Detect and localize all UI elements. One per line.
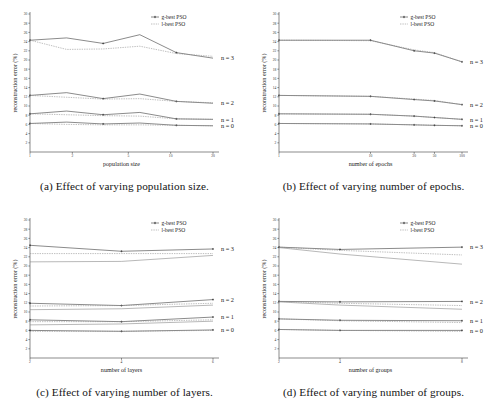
subfigure-d: 24681012141618202224262830248number of g…	[249, 206, 498, 412]
svg-text:population size: population size	[103, 161, 140, 167]
svg-text:20: 20	[24, 58, 28, 62]
svg-text:number of groups: number of groups	[349, 367, 393, 373]
svg-text:l-best PSO: l-best PSO	[411, 21, 435, 27]
svg-text:2: 2	[275, 141, 277, 145]
caption-b: (b) Effect of varying number of epochs.	[249, 180, 498, 192]
svg-text:50: 50	[433, 154, 437, 158]
plot-c: 24681012141618202224262830246number of l…	[0, 206, 249, 388]
svg-text:n = 0: n = 0	[470, 327, 483, 334]
plot-d: 24681012141618202224262830248number of g…	[249, 206, 498, 388]
svg-text:2: 2	[71, 154, 73, 158]
svg-text:8: 8	[275, 114, 277, 118]
subfigure-c: 24681012141618202224262830246number of l…	[0, 206, 249, 412]
svg-text:5: 5	[127, 154, 129, 158]
svg-text:n = 3: n = 3	[470, 243, 483, 250]
svg-text:28: 28	[24, 22, 28, 26]
svg-text:22: 22	[273, 49, 277, 53]
svg-text:4: 4	[275, 132, 277, 136]
svg-text:16: 16	[273, 283, 277, 287]
svg-text:30: 30	[273, 218, 277, 222]
svg-text:12: 12	[273, 301, 277, 305]
svg-text:number of layers: number of layers	[101, 367, 143, 373]
subfigure-a: 246810121416182022242628301251020populat…	[0, 0, 249, 206]
svg-text:reconstruction error (%): reconstruction error (%)	[261, 54, 268, 113]
svg-text:14: 14	[24, 86, 28, 90]
svg-text:8: 8	[26, 114, 28, 118]
svg-text:10: 10	[24, 310, 28, 314]
svg-text:n = 3: n = 3	[221, 54, 234, 61]
svg-text:n = 2: n = 2	[221, 99, 234, 106]
svg-text:28: 28	[273, 228, 277, 232]
svg-text:100: 100	[459, 154, 465, 158]
svg-text:n = 0: n = 0	[221, 122, 234, 129]
svg-text:14: 14	[273, 292, 277, 296]
svg-text:10: 10	[273, 310, 277, 314]
svg-text:10: 10	[24, 104, 28, 108]
svg-text:20: 20	[273, 58, 277, 62]
svg-text:20: 20	[24, 264, 28, 268]
svg-text:16: 16	[273, 77, 277, 81]
svg-text:10: 10	[273, 104, 277, 108]
svg-text:g-best PSO: g-best PSO	[162, 220, 187, 226]
svg-text:22: 22	[24, 49, 28, 53]
svg-text:16: 16	[24, 283, 28, 287]
svg-text:n = 2: n = 2	[470, 101, 483, 108]
svg-text:18: 18	[273, 68, 277, 72]
svg-text:l-best PSO: l-best PSO	[411, 227, 435, 233]
svg-text:22: 22	[24, 255, 28, 259]
chart-c-svg: 24681012141618202224262830246number of l…	[0, 206, 249, 388]
svg-text:g-best PSO: g-best PSO	[411, 14, 436, 20]
svg-text:6: 6	[275, 329, 277, 333]
caption-d: (d) Effect of varying number of groups.	[249, 386, 498, 398]
svg-text:16: 16	[24, 77, 28, 81]
svg-text:2: 2	[278, 360, 280, 364]
svg-text:24: 24	[273, 40, 277, 44]
svg-text:n = 1: n = 1	[221, 313, 234, 320]
svg-text:6: 6	[26, 123, 28, 127]
svg-text:22: 22	[273, 255, 277, 259]
svg-text:18: 18	[273, 274, 277, 278]
svg-text:reconstruction error (%): reconstruction error (%)	[12, 260, 19, 319]
svg-text:n = 2: n = 2	[470, 298, 483, 305]
chart-a-svg: 246810121416182022242628301251020populat…	[0, 0, 249, 182]
svg-text:reconstruction error (%): reconstruction error (%)	[261, 260, 268, 319]
svg-text:6: 6	[275, 123, 277, 127]
svg-text:l-best PSO: l-best PSO	[162, 227, 186, 233]
svg-text:26: 26	[24, 31, 28, 35]
svg-text:8: 8	[275, 320, 277, 324]
svg-text:12: 12	[273, 95, 277, 99]
svg-text:12: 12	[24, 95, 28, 99]
plot-a: 246810121416182022242628301251020populat…	[0, 0, 249, 182]
svg-text:14: 14	[24, 292, 28, 296]
svg-text:20: 20	[273, 264, 277, 268]
svg-text:26: 26	[273, 237, 277, 241]
svg-text:reconstruction error (%): reconstruction error (%)	[12, 54, 19, 113]
svg-text:1: 1	[278, 154, 280, 158]
svg-text:14: 14	[273, 86, 277, 90]
svg-text:6: 6	[26, 329, 28, 333]
svg-text:g-best PSO: g-best PSO	[411, 220, 436, 226]
svg-text:4: 4	[26, 132, 28, 136]
svg-text:18: 18	[24, 274, 28, 278]
svg-text:n = 3: n = 3	[470, 58, 483, 65]
svg-text:28: 28	[24, 228, 28, 232]
caption-a: (a) Effect of varying population size.	[0, 180, 249, 192]
svg-text:30: 30	[412, 154, 416, 158]
svg-text:g-best PSO: g-best PSO	[162, 14, 187, 20]
svg-text:n = 0: n = 0	[470, 122, 483, 129]
svg-text:30: 30	[24, 218, 28, 222]
caption-c: (c) Effect of varying number of layers.	[0, 386, 249, 398]
subfigure-b: 246810121416182022242628301103050100numb…	[249, 0, 498, 206]
svg-text:4: 4	[275, 338, 277, 342]
svg-text:26: 26	[24, 237, 28, 241]
svg-text:28: 28	[273, 22, 277, 26]
svg-text:4: 4	[121, 360, 123, 364]
svg-text:10: 10	[169, 154, 173, 158]
svg-text:n = 0: n = 0	[221, 326, 234, 333]
svg-text:24: 24	[273, 246, 277, 250]
svg-text:8: 8	[26, 320, 28, 324]
plot-b: 246810121416182022242628301103050100numb…	[249, 0, 498, 182]
svg-text:number of epochs: number of epochs	[349, 161, 393, 167]
chart-b-svg: 246810121416182022242628301103050100numb…	[249, 0, 498, 182]
svg-text:n = 2: n = 2	[221, 296, 234, 303]
